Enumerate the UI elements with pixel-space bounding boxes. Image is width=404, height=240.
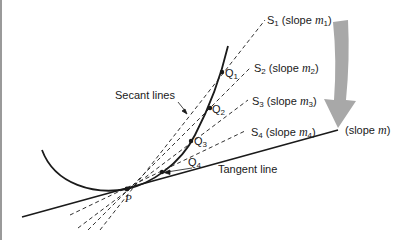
tangent-line-label: Tangent line: [218, 164, 277, 175]
downward-arrow-icon: [324, 20, 356, 128]
point-p-marker: [125, 187, 130, 192]
secant-lines-label: Secant lines: [115, 90, 175, 101]
diagram-canvas: [0, 0, 404, 240]
point-p-label: P: [125, 193, 132, 204]
point-q3-label: Q3: [194, 136, 207, 147]
point-q2-label: Q2: [212, 104, 225, 115]
point-q1-marker: [220, 70, 224, 74]
secant-s3-label: S3 (slope m3): [252, 95, 317, 107]
secant-tangent-diagram: S1 (slope m1) S2 (slope m2) S3 (slope m3…: [0, 0, 404, 240]
secant-s4-label: S4 (slope m4): [251, 126, 316, 138]
point-q4-marker: [160, 170, 164, 174]
point-q3-marker: [189, 139, 193, 143]
point-q4-label: Q4: [188, 157, 201, 168]
tangent-line: [22, 130, 338, 217]
secant-s1-label: S1 (slope m1): [267, 14, 332, 26]
secant-s2-label: S2 (slope m2): [254, 62, 319, 74]
point-q1-label: Q1: [225, 68, 238, 79]
secant-lines: [70, 20, 265, 230]
secant-pointer-arrow-icon: [178, 102, 187, 114]
tangent-slope-label: (slope m): [345, 124, 390, 136]
